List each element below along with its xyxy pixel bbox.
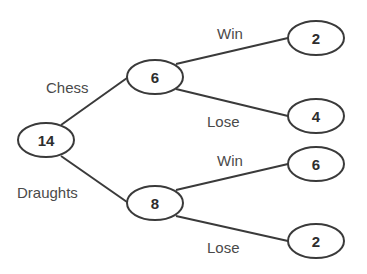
branch-label-draughts: Draughts	[17, 184, 78, 201]
node-chess: 6	[127, 60, 183, 94]
branch-label-draughts-lose: Lose	[207, 239, 240, 256]
node-chess-lose-value: 4	[312, 108, 321, 125]
edge-draughts-lose	[176, 216, 288, 241]
frequency-tree-diagram: 14 6 8 2 4 6 2 Chess Draughts Win Lose W…	[0, 0, 367, 274]
node-root: 14	[18, 123, 74, 157]
branch-label-chess: Chess	[46, 79, 89, 96]
node-draughts-lose-value: 2	[312, 233, 320, 250]
branch-label-draughts-win: Win	[217, 152, 243, 169]
branch-label-chess-lose: Lose	[207, 113, 240, 130]
node-draughts-win: 6	[288, 147, 344, 181]
edge-chess-lose	[176, 89, 288, 116]
node-root-value: 14	[38, 132, 55, 149]
node-chess-win: 2	[288, 21, 344, 55]
node-chess-value: 6	[151, 69, 159, 86]
node-draughts-win-value: 6	[312, 156, 320, 173]
node-chess-lose: 4	[288, 99, 344, 133]
branch-label-chess-win: Win	[217, 25, 243, 42]
node-chess-win-value: 2	[312, 30, 320, 47]
node-draughts: 8	[127, 186, 183, 220]
node-draughts-lose: 2	[288, 224, 344, 258]
node-draughts-value: 8	[151, 195, 159, 212]
